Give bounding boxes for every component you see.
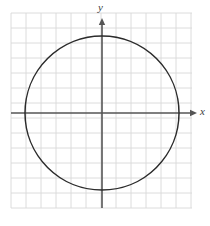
y-axis-label: y	[98, 2, 103, 13]
x-axis-label: x	[200, 106, 205, 117]
coordinate-plane	[0, 0, 210, 226]
axes	[11, 18, 197, 208]
graph-screenshot: y x	[0, 0, 210, 226]
x-axis-arrowhead	[190, 110, 197, 116]
y-axis-arrowhead	[99, 18, 105, 25]
